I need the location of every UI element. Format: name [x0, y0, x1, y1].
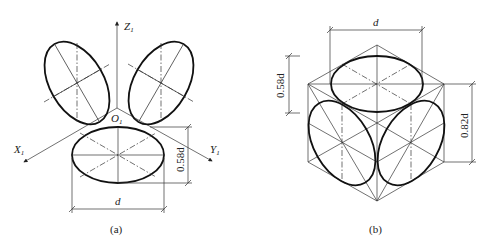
dimension-right-082d-label: 0.82d: [458, 113, 470, 138]
dimension-left-058d: 0.58d: [274, 53, 300, 116]
cube-outline: [308, 45, 444, 201]
y-axis-label: Y1: [210, 143, 220, 157]
dimension-right-082d: 0.82d: [444, 81, 476, 165]
z-axis-label: Z1: [124, 20, 134, 34]
caption-b: (b): [369, 223, 382, 236]
figure-a: Z1 X1 Y1 O1: [13, 20, 220, 236]
ellipse-bottom: [72, 127, 164, 183]
figure-b: d 0.58d 0.82d (b): [274, 16, 476, 236]
right-face-lines: [377, 84, 444, 201]
ellipse-left-centerlines: [44, 43, 110, 123]
origin-label: O1: [111, 112, 122, 126]
x-axis-label: X1: [13, 143, 24, 157]
dimension-left-058d-label: 0.58d: [274, 73, 286, 98]
dimension-d-label: d: [115, 195, 121, 207]
ellipse-right-centerlines: [128, 43, 194, 123]
isometric-ellipses-figure: Z1 X1 Y1 O1: [0, 0, 488, 244]
dimension-top-d-label: d: [373, 16, 379, 28]
caption-a: (a): [110, 223, 123, 236]
dimension-top-d: d: [327, 16, 425, 84]
dimension-058d-label: 0.58d: [174, 147, 186, 172]
